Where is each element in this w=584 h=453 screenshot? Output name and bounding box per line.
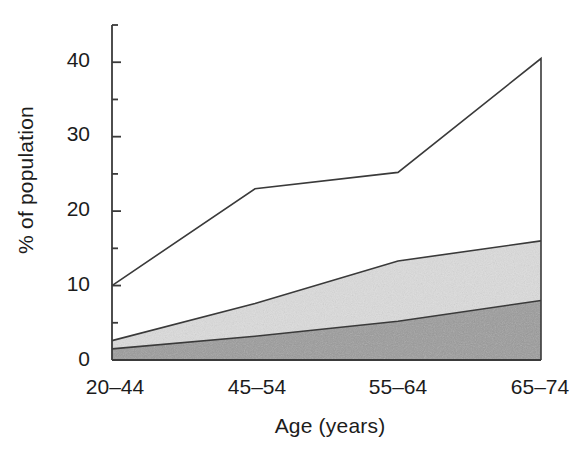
stacked-bands [112, 241, 541, 360]
chart-figure: % of population Age (years) 40 30 20 10 … [0, 0, 584, 453]
axis-tick-marks [112, 25, 121, 323]
plot-area [0, 0, 584, 453]
